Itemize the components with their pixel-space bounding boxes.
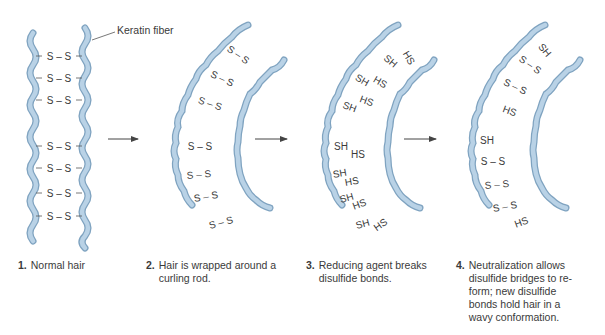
thiol-group: HS bbox=[501, 103, 518, 118]
disulfide-bond: S – S bbox=[47, 73, 72, 84]
step-number: 1. bbox=[18, 259, 27, 271]
thiol-group: HS bbox=[401, 49, 418, 67]
caption-step-2: 2.Hair is wrapped around a curling rod. bbox=[146, 259, 286, 285]
disulfide-bond: S – S bbox=[47, 95, 72, 106]
step-number: 2. bbox=[146, 259, 155, 272]
panel-3-reduced-hair: SH HS SH HS SH HS SH HS SH HS SH HS SH H… bbox=[324, 25, 434, 233]
thiol-group: HS bbox=[351, 149, 365, 160]
step-caption: Normal hair bbox=[31, 259, 85, 272]
disulfide-bond: S – S bbox=[208, 214, 235, 231]
panel-2-wrapped-hair: S – S S – S S – S S – S S – S S – S S – … bbox=[174, 25, 284, 231]
disulfide-bond: S – S bbox=[47, 141, 72, 152]
thiol-group: SH bbox=[341, 99, 358, 114]
disulfide-bond: S – S bbox=[492, 199, 518, 214]
disulfide-bond: S – S bbox=[186, 168, 212, 181]
disulfide-bond: S – S bbox=[225, 43, 252, 66]
step-number: 3. bbox=[306, 259, 315, 272]
panel-4-reformed-hair: SH S – S S – S HS SH S – S S – S S – S H… bbox=[471, 25, 580, 230]
disulfide-bond: S – S bbox=[188, 141, 213, 152]
keratin-label-leader bbox=[92, 32, 115, 40]
thiol-group: SH bbox=[536, 41, 553, 59]
thiol-group: HS bbox=[344, 175, 360, 188]
thiol-group: SH bbox=[354, 72, 372, 88]
caption-step-1: 1.Normal hair bbox=[18, 259, 128, 272]
disulfide-bond: S – S bbox=[47, 163, 72, 174]
thiol-group: HS bbox=[372, 74, 390, 91]
disulfide-bond: S – S bbox=[197, 95, 224, 113]
step-caption: Reducing agent breaks disulfide bonds. bbox=[319, 259, 437, 285]
disulfide-bond: S – S bbox=[517, 53, 544, 76]
panel-1-normal-hair: S – S S – S S – S S – S S – S S – S S – … bbox=[30, 28, 115, 248]
step-number: 4. bbox=[456, 259, 465, 272]
disulfide-bond: S – S bbox=[193, 189, 219, 204]
thiol-group: SH bbox=[382, 52, 400, 69]
disulfide-bond: S – S bbox=[47, 51, 72, 62]
caption-step-4: 4.Neutralization allows disulfide bridge… bbox=[456, 259, 596, 324]
disulfide-bond: S – S bbox=[47, 211, 72, 222]
thiol-group: SH bbox=[334, 141, 348, 152]
disulfide-bond: S – S bbox=[209, 68, 236, 88]
disulfide-bond: S – S bbox=[502, 76, 529, 96]
thiol-group: HS bbox=[358, 93, 375, 108]
disulfide-bond: S – S bbox=[481, 156, 506, 167]
caption-step-3: 3.Reducing agent breaks disulfide bonds. bbox=[306, 259, 446, 285]
step-caption: Neutralization allows disulfide bridges … bbox=[469, 259, 579, 324]
thiol-group: HS bbox=[372, 216, 390, 233]
thiol-group: SH bbox=[354, 217, 370, 231]
keratin-fiber-label: Keratin fiber bbox=[117, 24, 174, 36]
disulfide-bond: S – S bbox=[484, 178, 510, 191]
disulfide-bond: S – S bbox=[47, 188, 72, 199]
step-caption: Hair is wrapped around a curling rod. bbox=[159, 259, 277, 285]
thiol-group: SH bbox=[480, 135, 494, 146]
thiol-group: HS bbox=[513, 214, 530, 229]
